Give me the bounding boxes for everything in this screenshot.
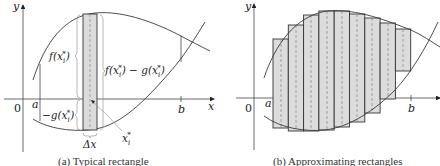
caption-a: (a) Typical rectangle [58, 155, 149, 166]
neg-g-brace [75, 100, 80, 130]
x-axis-label: x [208, 100, 215, 113]
delta-x-label: Δx [82, 138, 97, 150]
a-label: a [265, 97, 272, 110]
rectangle-7 [365, 18, 380, 113]
f-xi-label: f(xi*) [48, 50, 70, 65]
b-label: b [408, 102, 415, 115]
y-axis-label: y [12, 0, 20, 13]
area-between-curves-figure: y x 0 a b f(xi*) f(xi*) − g(xi*) −g(xi*)… [0, 0, 440, 166]
difference-label: f(xi*) − g(xi*) [104, 64, 165, 79]
y-axis-label: y [244, 0, 252, 13]
rectangle-4 [319, 11, 334, 130]
panel-b-approximating-rectangles: y 0 a b (b [236, 0, 440, 166]
a-label: a [32, 98, 39, 111]
origin-label: 0 [245, 102, 252, 115]
f-brace [75, 15, 80, 98]
panel-a-typical-rectangle: y x 0 a b f(xi*) f(xi*) − g(xi*) −g(xi*)… [4, 0, 215, 166]
b-label: b [178, 103, 185, 116]
xi-star-label: xi* [122, 131, 131, 147]
neg-g-xi-label: −g(xi*) [42, 109, 74, 124]
caption-b: (b) Approximating rectangles [273, 155, 403, 166]
origin-label: 0 [14, 102, 21, 115]
